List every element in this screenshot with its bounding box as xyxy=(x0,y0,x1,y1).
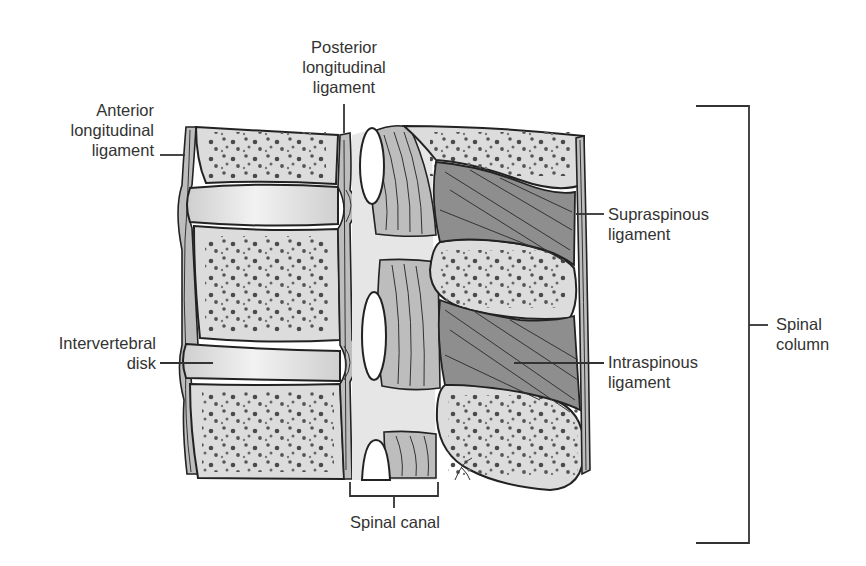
intervertebral-disk-upper xyxy=(187,185,338,226)
label-posterior-longitudinal-ligament: Posterior longitudinal ligament xyxy=(284,37,404,97)
label-spinal-column: Spinal column xyxy=(776,314,866,354)
label-intraspinous-ligament: Intraspinous ligament xyxy=(608,352,738,392)
label-intervertebral-disk: Intervertebral disk xyxy=(20,333,156,373)
label-spinal-canal: Spinal canal xyxy=(330,512,460,532)
lamina-lower xyxy=(384,431,436,478)
vertebral-body-upper xyxy=(196,127,338,184)
intervertebral-foramen-upper xyxy=(360,128,384,204)
vertebral-body-lower xyxy=(190,384,344,479)
label-anterior-longitudinal-ligament: Anterior longitudinal ligament xyxy=(40,100,154,160)
spinal-column-diagram xyxy=(0,0,866,566)
vertebral-body-middle xyxy=(194,226,340,342)
label-supraspinous-ligament: Supraspinous ligament xyxy=(608,204,738,244)
intervertebral-foramen-middle xyxy=(362,292,386,380)
